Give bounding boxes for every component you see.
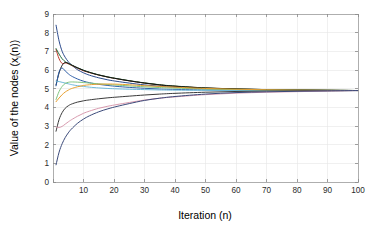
x-tick-label: 10 <box>79 186 89 195</box>
x-tick-label: 70 <box>262 186 272 195</box>
x-axis-title: Iteration (n) <box>178 209 232 221</box>
y-axis-title-main: Value of the nodes (x <box>8 57 20 156</box>
y-tick-label: 1 <box>44 159 49 168</box>
y-tick-label: 0 <box>44 178 49 187</box>
x-tick-label: 50 <box>201 186 211 195</box>
y-tick-label: 9 <box>44 10 49 19</box>
x-tick-label: 30 <box>140 186 150 195</box>
line-chart: 102030405060708090100 0123456789 Iterati… <box>0 0 382 227</box>
x-tick-label: 40 <box>170 186 180 195</box>
x-tick-label: 90 <box>323 186 333 195</box>
y-axis-title-tail: (n)) <box>8 40 20 56</box>
y-tick-label: 3 <box>44 122 49 131</box>
x-tick-label: 100 <box>351 186 365 195</box>
figure-canvas: 102030405060708090100 0123456789 Iterati… <box>0 0 382 227</box>
x-tick-label: 60 <box>231 186 241 195</box>
y-tick-label: 4 <box>44 103 49 112</box>
y-tick-label: 7 <box>44 47 49 56</box>
y-tick-label: 5 <box>44 85 49 94</box>
y-tick-label: 6 <box>44 66 49 75</box>
x-tick-label: 80 <box>292 186 302 195</box>
x-tick-label: 20 <box>109 186 119 195</box>
y-tick-label: 8 <box>44 29 49 38</box>
y-tick-label: 2 <box>44 141 49 150</box>
